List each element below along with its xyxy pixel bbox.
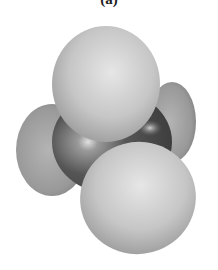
methane-space-filling-model (0, 0, 218, 270)
hydrogen-atom-top (52, 26, 160, 142)
